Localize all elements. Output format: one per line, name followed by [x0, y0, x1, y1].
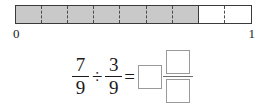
bar-segment-4	[94, 6, 120, 23]
fraction-bar	[15, 5, 252, 24]
answer-fraction	[163, 50, 193, 103]
bar-segment-6	[147, 6, 173, 23]
bar-segment-3	[68, 6, 94, 23]
bar-segment-2	[42, 6, 68, 23]
bar-segment-5	[120, 6, 146, 23]
fraction-bar-figure: 0 1	[15, 5, 252, 24]
bar-segment-9	[225, 6, 251, 23]
divisor-numerator: 3	[106, 55, 122, 75]
answer-denominator-box[interactable]	[166, 79, 190, 103]
dividend-fraction: 7 9	[72, 55, 89, 98]
dividend-numerator: 7	[73, 55, 89, 75]
answer-whole-number-box[interactable]	[138, 65, 162, 89]
answer-fraction-rule	[163, 76, 193, 77]
divisor-denominator: 9	[106, 78, 122, 98]
equals-operator-icon: =	[122, 67, 137, 86]
divisor-fraction: 3 9	[105, 55, 122, 98]
bar-segment-1	[16, 6, 42, 23]
bar-segment-8	[199, 6, 225, 23]
axis-label-start: 0	[13, 27, 20, 40]
bar-segment-7	[173, 6, 199, 23]
axis-label-end: 1	[249, 27, 256, 40]
divide-operator-icon: ÷	[89, 67, 105, 86]
equation-row: 7 9 ÷ 3 9 =	[0, 45, 265, 108]
dividend-denominator: 9	[73, 78, 89, 98]
answer-numerator-box[interactable]	[166, 50, 190, 74]
